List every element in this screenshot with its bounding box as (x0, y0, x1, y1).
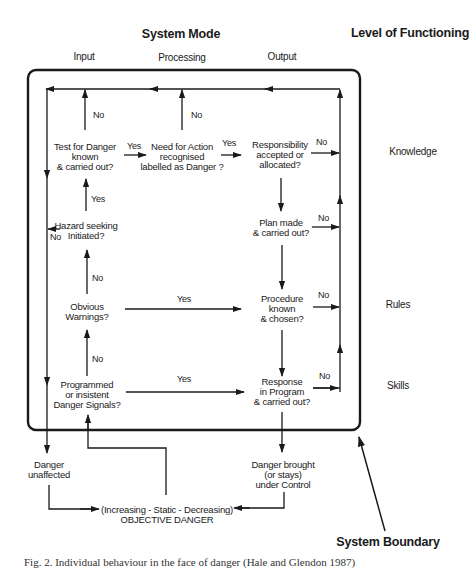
level-of-functioning-heading: Level of Functioning (351, 26, 469, 40)
system-boundary-label: System Boundary (336, 535, 439, 549)
system-boundary-box (28, 70, 360, 430)
node-programmed-signals: Programmed or insistent Danger Signals? (53, 380, 120, 410)
column-output: Output (268, 52, 297, 62)
level-rules: Rules (386, 300, 411, 310)
edge-label-test-need-yes: Yes (127, 141, 141, 151)
node-objective-danger: (Increasing - Static - Decreasing) OBJEC… (101, 505, 233, 525)
edge-label-proc-no: No (318, 290, 329, 300)
node-danger-controlled: Danger brought (or stays) under Control (251, 460, 314, 490)
node-procedure-known: Procedure known & chosen? (260, 294, 303, 324)
edge-label-obvious-hazard-no: No (92, 273, 103, 283)
system-mode-heading: System Mode (142, 27, 220, 41)
edge-label-response-no: No (319, 371, 330, 381)
edge-label-obvious-proc-yes: Yes (177, 294, 191, 304)
column-input: Input (73, 52, 94, 62)
edge-label-hazard-no: No (50, 232, 61, 242)
edge-label-programmed-response-yes: Yes (177, 374, 191, 384)
edge-label-programmed-obvious-no: No (92, 354, 103, 364)
node-need-for-action: Need for Action recognised labelled as D… (140, 142, 223, 172)
node-response-in-program: Response in Program & carried out? (254, 377, 310, 407)
node-plan-made: Plan made & carried out? (253, 218, 309, 238)
node-obvious-warnings: Obvious Warnings? (65, 302, 108, 322)
column-processing: Processing (158, 53, 205, 63)
edge-label-plan-no: No (318, 213, 329, 223)
level-skills: Skills (387, 381, 409, 391)
node-hazard-seeking: Hazard seeking Initiated? (54, 221, 117, 241)
edge-label-need-no: No (191, 110, 202, 120)
figure-caption: Fig. 2. Individual behaviour in the face… (24, 556, 355, 568)
flow-diagram-canvas (0, 0, 472, 568)
node-responsibility: Responsibility accepted or allocated? (252, 140, 308, 170)
edge-label-need-resp-yes: Yes (222, 138, 236, 148)
node-test-for-danger: Test for Danger known & carried out? (54, 142, 116, 172)
edge-label-resp-no: No (316, 137, 327, 147)
level-knowledge: Knowledge (389, 147, 437, 157)
edge-label-hazard-test-yes: Yes (91, 194, 105, 204)
node-danger-unaffected: Danger unaffected (28, 460, 70, 480)
system-boundary-pointer (359, 437, 385, 531)
edge-label-test-no: No (93, 110, 104, 120)
